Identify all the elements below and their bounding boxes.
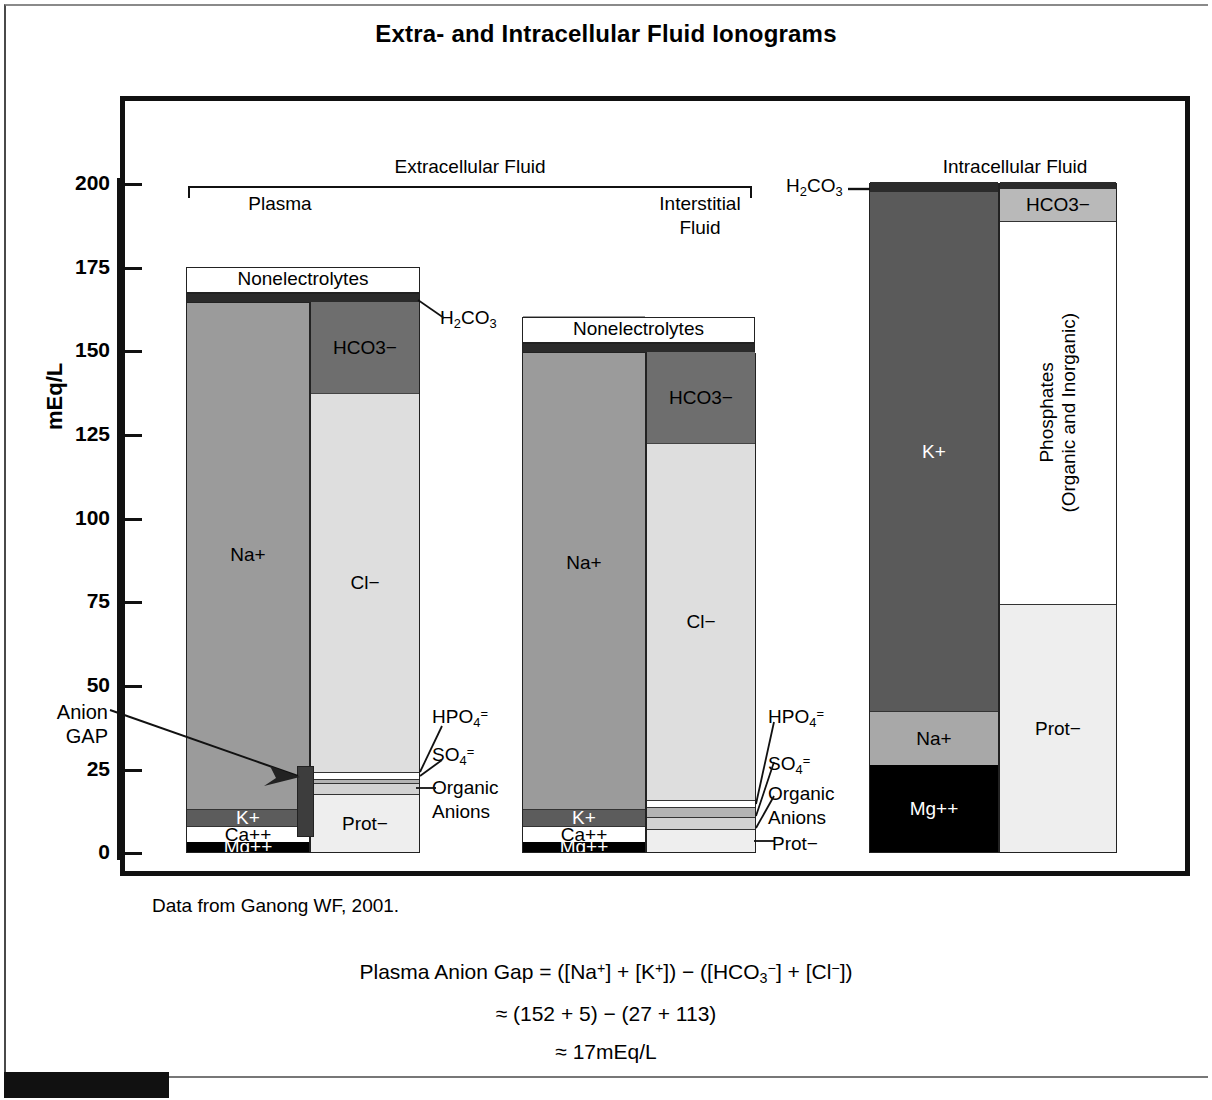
segment-label-ca-isf: Ca++ xyxy=(561,826,607,842)
group-label-extracellular: Extracellular Fluid xyxy=(190,155,750,178)
icf-anion-column: HCO3− Phosphates (Organic and Inorganic)… xyxy=(999,183,1117,853)
y-tick-200 xyxy=(122,183,142,186)
segment-label-na-isf: Na+ xyxy=(566,552,601,574)
icf-cation-column: K+ Na+ Mg++ xyxy=(869,183,999,853)
page-title: Extra- and Intracellular Fluid Ionograms xyxy=(0,20,1212,48)
leader-h2co3-icf xyxy=(848,183,872,197)
segment-label-na: Na+ xyxy=(230,544,265,566)
y-tick-150 xyxy=(122,350,142,353)
anion-gap-label-2: GAP xyxy=(8,724,108,748)
y-tick-label-175: 175 xyxy=(48,255,110,279)
segment-label-hco3-isf: HCO3− xyxy=(669,387,733,409)
segment-label-k: K+ xyxy=(236,809,260,826)
segment-icf-anion-h2co3 xyxy=(1000,182,1116,189)
leader-h2co3-plasma xyxy=(418,298,448,322)
y-tick-0 xyxy=(122,852,142,855)
y-tick-label-200: 200 xyxy=(48,171,110,195)
anion-gap-label: Anion GAP xyxy=(8,700,108,748)
segment-plasma-mg: Mg++ xyxy=(187,842,309,852)
interstitial-cation-column: Na+ K+ Ca++ Mg++ xyxy=(522,317,646,853)
segment-interstitial-hpo4 xyxy=(647,800,755,807)
segment-plasma-organic xyxy=(311,783,419,795)
y-tick-label-125: 125 xyxy=(48,422,110,446)
segment-label-mg-isf: Mg++ xyxy=(560,842,609,852)
footer-rule xyxy=(169,1076,1208,1078)
group-label-interstitial-1: Interstitial xyxy=(640,192,760,215)
y-axis-title: mEq/L xyxy=(42,363,68,430)
segment-plasma-prot: Prot− xyxy=(311,795,419,852)
segment-interstitial-na: Na+ xyxy=(523,316,645,809)
segment-label-cl: Cl− xyxy=(350,572,379,594)
data-source-note: Data from Ganong WF, 2001. xyxy=(152,895,399,917)
segment-interstitial-ca: Ca++ xyxy=(523,826,645,842)
y-tick-100 xyxy=(122,518,142,521)
segment-label-phosphates-2: (Organic and Inorganic) xyxy=(1058,313,1079,513)
segment-label-ca: Ca++ xyxy=(225,826,271,842)
group-label-intracellular: Intracellular Fluid xyxy=(900,155,1130,178)
plasma-nonelectrolytes-band: Nonelectrolytes xyxy=(186,267,420,293)
segment-interstitial-hco3: HCO3− xyxy=(647,352,755,443)
y-tick-label-25: 25 xyxy=(48,757,110,781)
y-tick-125 xyxy=(122,434,142,437)
equation-line-2: ≈ (152 + 5) − (27 + 113) xyxy=(0,1002,1212,1026)
segment-label-k-icf: K+ xyxy=(922,441,946,463)
segment-interstitial-cl: Cl− xyxy=(647,443,755,800)
leaders-plasma-anions xyxy=(418,700,458,820)
segment-label-cl-isf: Cl− xyxy=(686,611,715,633)
interstitial-nonelectrolytes-band: Nonelectrolytes xyxy=(522,317,755,343)
segment-interstitial-prot xyxy=(647,830,755,852)
interstitial-anion-column: HCO3− Cl− xyxy=(646,353,756,853)
segment-label-nonelectrolytes-isf: Nonelectrolytes xyxy=(573,318,704,340)
segment-interstitial-k: K+ xyxy=(523,809,645,826)
segment-plasma-ca: Ca++ xyxy=(187,826,309,842)
segment-interstitial-so4 xyxy=(647,807,755,817)
segment-icf-mg: Mg++ xyxy=(870,765,998,852)
segment-label-phosphates: Phosphates (Organic and Inorganic) xyxy=(1036,313,1080,513)
segment-icf-phosphates: Phosphates (Organic and Inorganic) xyxy=(1000,222,1116,604)
y-tick-50 xyxy=(122,685,142,688)
segment-icf-na: Na+ xyxy=(870,711,998,765)
segment-label-k-isf: K+ xyxy=(572,809,596,826)
equation-line-1: Plasma Anion Gap = ([Na+] + [K+]) − ([HC… xyxy=(0,960,1212,986)
y-tick-175 xyxy=(122,267,142,270)
segment-plasma-cl: Cl− xyxy=(311,393,419,772)
segment-plasma-hco3: HCO3− xyxy=(311,302,419,393)
segment-label-hco3: HCO3− xyxy=(333,337,397,359)
segment-label-hco3-icf: HCO3− xyxy=(1026,194,1090,216)
segment-interstitial-mg: Mg++ xyxy=(523,842,645,852)
group-label-plasma: Plasma xyxy=(190,192,370,215)
segment-label-prot: Prot− xyxy=(342,813,388,835)
anion-gap-arrow xyxy=(110,700,320,810)
segment-icf-h2co3 xyxy=(870,182,998,192)
callout-h2co3-icf: H2CO3 xyxy=(786,175,843,199)
segment-icf-k: K+ xyxy=(870,192,998,711)
callout-h2co3-plasma: H2CO3 xyxy=(440,307,497,331)
segment-label-prot-icf: Prot− xyxy=(1035,718,1081,740)
y-tick-label-0: 0 xyxy=(48,840,110,864)
y-tick-75 xyxy=(122,601,142,604)
plasma-anion-column: HCO3− Cl− Prot− xyxy=(310,303,420,853)
segment-interstitial-organic xyxy=(647,817,755,830)
segment-label-nonelectrolytes: Nonelectrolytes xyxy=(238,268,369,290)
segment-icf-hco3: HCO3− xyxy=(1000,189,1116,222)
anion-gap-label-1: Anion xyxy=(8,700,108,724)
group-label-interstitial-2: Fluid xyxy=(640,216,760,239)
footer-black-bar xyxy=(4,1072,169,1098)
equation-line-3: ≈ 17mEq/L xyxy=(0,1040,1212,1064)
y-tick-label-50: 50 xyxy=(48,673,110,697)
segment-icf-prot: Prot− xyxy=(1000,604,1116,852)
segment-label-mg-icf: Mg++ xyxy=(910,798,959,820)
y-tick-label-150: 150 xyxy=(48,338,110,362)
y-tick-label-100: 100 xyxy=(48,506,110,530)
segment-plasma-k: K+ xyxy=(187,809,309,826)
segment-label-phosphates-1: Phosphates xyxy=(1036,363,1057,463)
segment-label-na-icf: Na+ xyxy=(916,728,951,750)
leaders-interstitial-anions xyxy=(752,700,792,850)
y-tick-label-75: 75 xyxy=(48,589,110,613)
segment-label-mg: Mg++ xyxy=(224,842,273,852)
segment-plasma-hpo4 xyxy=(311,772,419,779)
